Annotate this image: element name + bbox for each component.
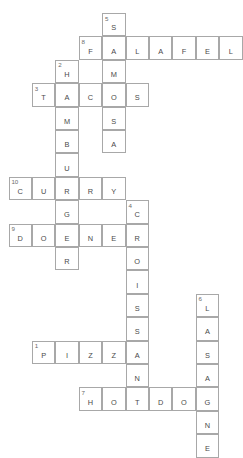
cell-clue-number: 1 <box>35 342 38 349</box>
crossword-cell[interactable]: L <box>126 36 149 59</box>
crossword-cell[interactable]: F <box>172 36 195 59</box>
crossword-cell[interactable]: M <box>55 107 78 130</box>
crossword-cell[interactable]: 9D <box>9 224 32 247</box>
crossword-cell[interactable]: G <box>196 387 219 410</box>
cell-letter: O <box>127 258 148 266</box>
cell-letter: N <box>127 375 148 383</box>
cell-letter: H <box>80 399 101 407</box>
crossword-cell[interactable]: S <box>126 317 149 340</box>
crossword-cell[interactable]: Z <box>102 341 125 364</box>
cell-letter: E <box>56 235 77 243</box>
crossword-cell[interactable]: 4C <box>126 200 149 223</box>
crossword-cell[interactable]: A <box>102 130 125 153</box>
cell-letter: L <box>220 48 241 56</box>
cell-letter: H <box>56 71 77 79</box>
cell-letter: A <box>197 375 218 383</box>
crossword-cell[interactable]: Y <box>102 177 125 200</box>
cell-letter: S <box>127 305 148 313</box>
crossword-cell[interactable]: A <box>149 36 172 59</box>
crossword-cell[interactable]: 7H <box>79 387 102 410</box>
crossword-cell[interactable]: O <box>102 83 125 106</box>
cell-letter: A <box>127 352 148 360</box>
crossword-cell[interactable]: E <box>55 224 78 247</box>
crossword-cell[interactable]: N <box>79 224 102 247</box>
crossword-cell[interactable]: 10C <box>9 177 32 200</box>
cell-letter: A <box>150 48 171 56</box>
crossword-cell[interactable]: A <box>126 341 149 364</box>
cell-letter: R <box>56 188 77 196</box>
crossword-cell[interactable]: U <box>32 177 55 200</box>
crossword-cell[interactable]: E <box>102 224 125 247</box>
crossword-cell[interactable]: S <box>126 83 149 106</box>
crossword-cell[interactable]: N <box>196 411 219 434</box>
crossword-cell[interactable]: O <box>102 387 125 410</box>
cell-letter: N <box>80 235 101 243</box>
crossword-cell[interactable]: O <box>126 247 149 270</box>
cell-letter: R <box>80 188 101 196</box>
cell-letter: O <box>33 235 54 243</box>
crossword-cell[interactable]: E <box>196 36 219 59</box>
cell-clue-number: 6 <box>199 295 202 302</box>
cell-letter: F <box>80 48 101 56</box>
crossword-cell[interactable]: U <box>55 153 78 176</box>
cell-letter: N <box>197 422 218 430</box>
crossword-cell[interactable]: R <box>126 224 149 247</box>
crossword-cell[interactable]: N <box>126 364 149 387</box>
crossword-cell[interactable]: E <box>196 434 219 457</box>
crossword-cell[interactable]: D <box>149 387 172 410</box>
cell-letter: S <box>103 118 124 126</box>
crossword-cell[interactable]: B <box>55 130 78 153</box>
crossword-cell[interactable]: O <box>172 387 195 410</box>
cell-letter: D <box>150 399 171 407</box>
crossword-cell[interactable]: M <box>102 60 125 83</box>
cell-letter: O <box>103 399 124 407</box>
crossword-cell[interactable]: C <box>79 83 102 106</box>
cell-letter: R <box>56 258 77 266</box>
cell-letter: L <box>127 48 148 56</box>
crossword-cell[interactable]: A <box>55 83 78 106</box>
crossword-cell[interactable]: R <box>79 177 102 200</box>
crossword-cell[interactable]: 6L <box>196 294 219 317</box>
cell-letter: A <box>56 94 77 102</box>
cell-letter: D <box>10 235 31 243</box>
cell-letter: S <box>127 328 148 336</box>
cell-letter: B <box>56 141 77 149</box>
cell-letter: E <box>103 235 124 243</box>
crossword-cell[interactable]: 1P <box>32 341 55 364</box>
crossword-cell[interactable]: 8F <box>79 36 102 59</box>
crossword-cell[interactable]: I <box>126 270 149 293</box>
crossword-cell[interactable]: G <box>55 200 78 223</box>
crossword-cell[interactable]: 3T <box>32 83 55 106</box>
cell-letter: L <box>197 305 218 313</box>
cell-clue-number: 3 <box>35 85 38 92</box>
cell-clue-number: 9 <box>11 225 14 232</box>
crossword-cell[interactable]: O <box>32 224 55 247</box>
crossword-cell[interactable]: L <box>219 36 242 59</box>
cell-letter: A <box>103 141 124 149</box>
cell-letter: C <box>80 94 101 102</box>
crossword-cell[interactable]: 5S <box>102 13 125 36</box>
cell-letter: T <box>33 94 54 102</box>
crossword-cell[interactable]: S <box>196 341 219 364</box>
crossword-cell[interactable]: A <box>196 317 219 340</box>
crossword-cell[interactable]: R <box>55 177 78 200</box>
crossword-cell[interactable]: A <box>196 364 219 387</box>
crossword-cell[interactable]: S <box>126 294 149 317</box>
cell-letter: A <box>197 328 218 336</box>
crossword-cell[interactable]: 2H <box>55 60 78 83</box>
crossword-cell[interactable]: R <box>55 247 78 270</box>
crossword-cell[interactable]: Z <box>79 341 102 364</box>
cell-clue-number: 10 <box>11 178 18 185</box>
crossword-cell[interactable]: S <box>102 107 125 130</box>
cell-letter: E <box>197 445 218 453</box>
cell-letter: Z <box>80 352 101 360</box>
crossword-cell[interactable]: I <box>55 341 78 364</box>
cell-letter: U <box>33 188 54 196</box>
cell-letter: T <box>127 399 148 407</box>
cell-letter: G <box>56 211 77 219</box>
crossword-cell[interactable]: T <box>126 387 149 410</box>
crossword-cell[interactable]: A <box>102 36 125 59</box>
cell-letter: G <box>197 399 218 407</box>
cell-letter: S <box>103 24 124 32</box>
